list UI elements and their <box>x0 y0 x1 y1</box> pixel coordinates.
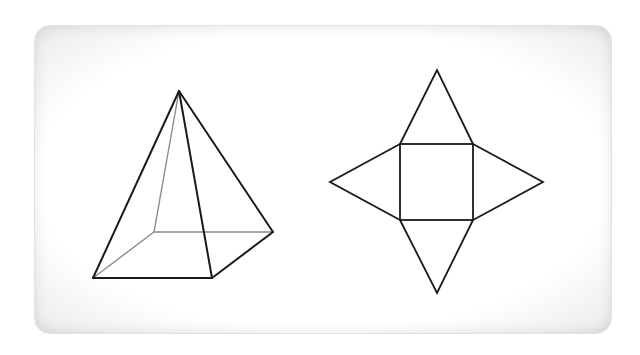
pyramid-net <box>330 70 543 293</box>
edge-apex-front-right <box>179 91 212 278</box>
diagram-canvas <box>0 0 640 355</box>
net-triangle-bottom <box>400 220 473 293</box>
edge-apex-front-left <box>93 91 179 278</box>
edge-front-right-back-right <box>212 232 273 278</box>
net-triangle-left <box>330 144 400 220</box>
hidden-edge-apex-back-left <box>154 91 179 232</box>
net-square-base <box>400 144 473 220</box>
edge-apex-back-right <box>179 91 273 232</box>
net-triangle-top <box>400 70 473 144</box>
square-pyramid <box>93 91 273 278</box>
hidden-edge-back-left-front-left <box>93 232 154 278</box>
net-triangle-right <box>473 144 543 220</box>
